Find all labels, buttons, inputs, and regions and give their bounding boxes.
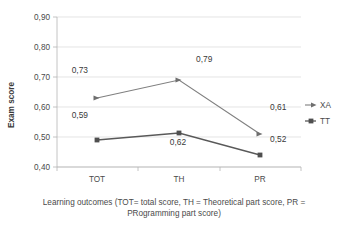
data-label-xa-tot: 0,73: [72, 65, 89, 75]
x-axis-caption-line2: PRogramming part score): [127, 209, 221, 218]
data-label-tt-pr: 0,52: [270, 134, 287, 144]
y-tick-label-080: 0,80: [34, 43, 50, 52]
data-label-tt-th: 0,62: [170, 137, 187, 147]
y-tick-label-090: 0,90: [34, 13, 50, 22]
marker-tt-pr: [258, 153, 263, 158]
x-tick-label-tot: TOT: [89, 175, 105, 184]
x-tick-label-th: TH: [174, 175, 185, 184]
chart-figure: 0,90 0,80 0,70 0,60 0,50 0,40 TOT TH PR …: [0, 0, 348, 228]
data-label-tt-tot: 0,59: [72, 110, 89, 120]
data-label-xa-th: 0,79: [196, 54, 213, 64]
y-tick-label-040: 0,40: [34, 163, 50, 172]
y-axis-title: Exam score: [7, 82, 16, 128]
marker-tt-th: [177, 131, 182, 136]
data-label-xa-pr: 0,61: [270, 102, 287, 112]
legend-label-tt: TT: [320, 117, 330, 126]
y-tick-label-060: 0,60: [34, 103, 50, 112]
legend-marker-tt-square-icon: [309, 119, 314, 124]
x-axis-caption-line1: Learning outcomes (TOT= total score, TH …: [43, 198, 306, 207]
chart-background: [0, 0, 348, 228]
y-tick-label-070: 0,70: [34, 73, 50, 82]
legend-label-xa: XA: [320, 101, 331, 110]
line-chart-canvas: 0,90 0,80 0,70 0,60 0,50 0,40 TOT TH PR …: [0, 0, 348, 228]
y-tick-label-050: 0,50: [34, 133, 50, 142]
x-tick-label-pr: PR: [254, 175, 265, 184]
marker-tt-tot: [95, 138, 100, 143]
